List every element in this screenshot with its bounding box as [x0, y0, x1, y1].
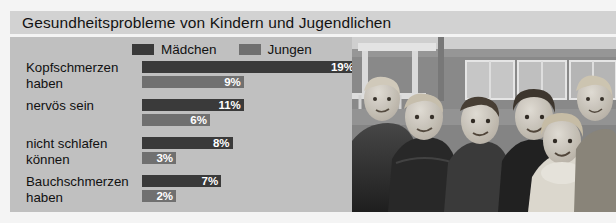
legend-swatch-jungen	[239, 44, 261, 55]
row-category-label: nervös sein	[26, 98, 136, 114]
bar-value-jungen: 2%	[156, 190, 173, 202]
chart-row: Kopfschmerzen haben 19% 9%	[10, 59, 356, 97]
bar-maedchen: 11%	[142, 99, 244, 111]
chart-row: Bauchschmerzen haben 7% 2%	[10, 173, 356, 211]
row-category-label: nicht schlafen können	[26, 136, 136, 168]
chart-row: nicht schlafen können 8% 3%	[10, 135, 356, 173]
group-photo	[352, 37, 616, 212]
bar-value-jungen: 9%	[224, 76, 241, 88]
bar-value-maedchen: 19%	[331, 61, 354, 73]
chart-row: nervös sein 11% 6%	[10, 97, 356, 135]
legend-swatch-maedchen	[132, 44, 154, 55]
bar-value-jungen: 3%	[156, 152, 173, 164]
infographic-root: Gesundheitsprobleme von Kindern und Juge…	[0, 0, 616, 223]
row-bars: 19% 9%	[142, 61, 357, 91]
bar-maedchen: 8%	[142, 137, 233, 149]
row-category-label: Kopfschmerzen haben	[26, 60, 136, 92]
chart-rows: Kopfschmerzen haben 19% 9% nervös sein 1…	[10, 59, 356, 211]
bar-jungen: 9%	[142, 76, 244, 88]
bar-jungen: 6%	[142, 114, 210, 126]
bar-maedchen: 7%	[142, 175, 221, 187]
bar-value-maedchen: 7%	[202, 175, 219, 187]
chart-legend: Mädchen Jungen	[132, 41, 312, 57]
bar-jungen: 2%	[142, 190, 176, 202]
chart-title-bar: Gesundheitsprobleme von Kindern und Juge…	[10, 11, 616, 34]
legend-label-maedchen: Mädchen	[161, 42, 217, 57]
bar-maedchen: 19%	[142, 61, 357, 73]
bar-value-maedchen: 8%	[213, 137, 230, 149]
row-bars: 7% 2%	[142, 175, 221, 205]
row-bars: 11% 6%	[142, 99, 244, 129]
legend-item-maedchen: Mädchen	[132, 42, 217, 57]
bar-value-jungen: 6%	[190, 114, 207, 126]
legend-item-jungen: Jungen	[239, 42, 312, 57]
row-category-label: Bauchschmerzen haben	[26, 174, 136, 206]
bar-jungen: 3%	[142, 152, 176, 164]
group-photo-image	[352, 37, 616, 212]
bar-value-maedchen: 11%	[218, 99, 240, 111]
row-bars: 8% 3%	[142, 137, 233, 167]
page-title: Gesundheitsprobleme von Kindern und Juge…	[10, 14, 391, 32]
legend-label-jungen: Jungen	[268, 42, 312, 57]
